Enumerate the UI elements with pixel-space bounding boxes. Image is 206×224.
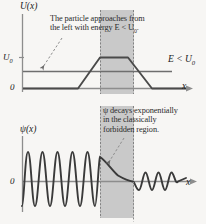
energy-level-label: E < U0 [168,54,195,66]
annotation-bottom-line1: ψ decays exponentially [103,106,178,115]
x-axis-arrow-bottom [190,179,197,185]
tunneling-figure: U(x) U0 0 The particle approaches from t… [0,0,206,224]
x-axis-label-top: x [182,81,186,92]
zero-tick-label-bottom: 0 [10,176,15,186]
annotation-top-period: . [137,23,139,32]
u0-subscript: 0 [10,57,13,64]
annotation-bottom-line2: in the classically [103,115,157,124]
annotation-bottom-line3: forbidden region. [103,125,159,134]
annotation-top: The particle approaches from the left wi… [50,14,145,34]
zero-tick-label-top: 0 [10,82,15,92]
energy-label-subscript: 0 [192,59,195,66]
u-axis-label: U(x) [20,1,37,12]
u0-tick-label: U0 [3,52,13,64]
annotation-leader-top [43,38,62,67]
annotation-top-line2: the left with energy E < U [50,23,134,32]
x-axis-label-bottom: x [186,177,190,188]
annotation-top-line1: The particle approaches from [50,14,145,23]
annotation-bottom: ψ decays exponentially in the classicall… [103,106,178,134]
psi-axis-label: ψ(x) [20,124,36,135]
x-axis-arrow-top [186,86,193,92]
